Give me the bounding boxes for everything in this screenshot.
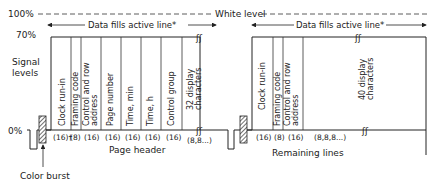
sync-pulse-header xyxy=(27,130,39,149)
signal-levels-label-1: Signal xyxy=(12,57,40,67)
break-mark-icon: ʃʃ xyxy=(195,126,203,136)
rl-bits-clock-run-in: (16) xyxy=(256,133,271,142)
color-burst-header xyxy=(39,116,46,143)
page-header-caption: Page header xyxy=(109,145,166,155)
break-mark-icon: ʃʃ xyxy=(354,33,362,43)
break-mark-icon: ʃʃ xyxy=(195,33,203,43)
bits-display-chars: (8,8...) xyxy=(187,136,212,145)
bits-framing-code: (8) xyxy=(70,133,81,142)
field-time-min: Time, min xyxy=(126,86,135,127)
rl-bits-framing-code: (8) xyxy=(274,133,285,142)
bits-page-number: (16) xyxy=(105,133,120,142)
rl-field-40-display-2: characters xyxy=(366,58,375,100)
color-burst-remaining xyxy=(240,116,247,143)
rl-bits-control-row: (16) xyxy=(288,133,303,142)
teletext-signal-diagram: 100% White level Data fills active line*… xyxy=(0,0,436,185)
rl-field-control-row-2: address xyxy=(291,95,300,126)
field-32-display-2: characters xyxy=(194,68,203,110)
rl-field-clock-run-in: Clock run-in xyxy=(258,62,267,110)
field-time-h: Time, h xyxy=(146,96,155,127)
level-100-label: 100% xyxy=(8,9,34,19)
level-0-label: 0% xyxy=(8,126,23,136)
bits-time-min: (16) xyxy=(125,133,140,142)
white-level-label: White level xyxy=(215,9,265,19)
bits-control-group: (16) xyxy=(166,133,181,142)
bits-time-h: (16) xyxy=(145,133,160,142)
color-burst-label: Color burst xyxy=(20,171,70,181)
data-fills-label-right: Data fills active line* xyxy=(296,20,384,30)
field-control-row-2: address xyxy=(90,95,99,126)
signal-levels-label-2: levels xyxy=(12,68,38,78)
header-baseline xyxy=(46,37,200,130)
field-framing-code: Framing code xyxy=(71,72,80,126)
field-control-group: Control group xyxy=(167,71,176,126)
rl-field-framing-code: Framing code xyxy=(273,72,282,126)
field-clock-run-in: Clock run-in xyxy=(58,78,67,126)
break-mark-icon: ʃʃ xyxy=(361,126,369,136)
header-data-envelope xyxy=(46,37,200,130)
bits-control-row: (16) xyxy=(84,133,99,142)
remaining-lines-caption: Remaining lines xyxy=(272,148,344,158)
field-page-number: Page number xyxy=(106,72,115,126)
level-70-label: 70% xyxy=(16,30,36,40)
rl-bits-display-chars: (8,8,8...) xyxy=(314,133,346,142)
data-fills-label-left: Data fills active line* xyxy=(88,20,176,30)
